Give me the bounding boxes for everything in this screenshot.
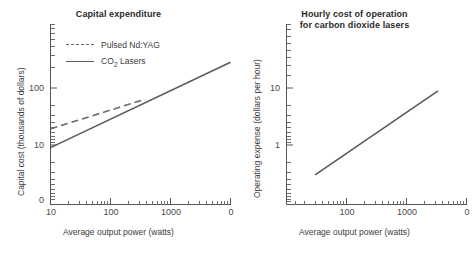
x-minor-ticks-right [295,198,466,205]
x-tick-label-10000-left: 0 [228,207,233,217]
x-minor-ticks-left [51,198,231,205]
series-line-co2-lasers [51,62,231,147]
legend-label-pulsed-ndyag: Pulsed Nd:YAG [101,40,160,50]
legend-label-co2-suffix: Lasers [118,56,146,66]
legend-label-co2-prefix: CO [101,56,114,66]
y-minor-ticks-right [287,24,294,202]
y-minor-ticks-left [51,24,58,199]
x-tick-label-10-left: 10 [46,207,56,217]
series-line-operating-expense [315,91,438,175]
legend-swatch-dashed-icon [66,44,94,45]
chart-panel-hourly-cost: Hourly cost of operation for carbon diox… [236,0,473,264]
figure-root: Capital expenditure [0,0,473,264]
x-tick-label-1000-left: 1000 [161,207,181,217]
legend-label-co2-lasers: CO2 Lasers [101,56,146,68]
x-axis-title-right: Average output power (watts) [236,227,473,237]
legend-item-pulsed-ndyag: Pulsed Nd:YAG [66,38,160,51]
y-axis-title-left: Capital cost (thousands of dollars) [16,67,26,196]
legend-item-co2-lasers: CO2 Lasers [66,55,160,68]
y-tick-label-0-left: 0 [16,195,44,205]
x-axis-title-left: Average output power (watts) [0,227,237,237]
legend-left: Pulsed Nd:YAG CO2 Lasers [66,38,160,68]
x-tick-label-1000-right: 1000 [397,207,417,217]
plot-area-right [236,0,473,264]
y-axis-title-right: Operating expense (dollars per hour) [252,59,262,198]
legend-swatch-solid-icon [66,61,94,62]
x-tick-label-100-right: 100 [339,207,354,217]
x-tick-label-10000-right: 0 [464,207,469,217]
x-tick-label-100-left: 100 [103,207,118,217]
chart-panel-capital-expenditure: Capital expenditure [0,0,237,264]
